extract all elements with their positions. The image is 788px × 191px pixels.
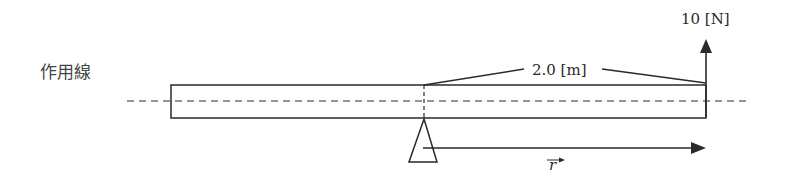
lever-diagram (0, 0, 788, 191)
line-of-action-label: 作用線 (40, 58, 91, 83)
position-vector-label: r (549, 156, 556, 174)
fulcrum-triangle (409, 119, 437, 162)
force-arrow-head (700, 39, 712, 53)
distance-label: 2.0 [m] (532, 61, 587, 79)
vector-accent-head (559, 158, 565, 163)
position-vector-arrow-head (691, 142, 706, 154)
force-label: 10 [N] (681, 10, 730, 28)
